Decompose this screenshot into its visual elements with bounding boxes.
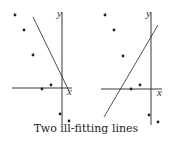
right-x-label: x <box>156 86 162 98</box>
right-y-label: y <box>145 7 151 19</box>
left-data-point <box>23 29 26 32</box>
right-fit-line <box>104 25 158 117</box>
left-data-point <box>14 14 17 17</box>
right-data-point <box>130 88 133 91</box>
figure-caption: Two ill-fitting lines <box>0 122 172 135</box>
right-data-point <box>113 29 116 32</box>
left-fit-line <box>33 17 69 91</box>
right-data-point <box>104 14 107 17</box>
left-data-point <box>50 84 53 87</box>
right-data-point <box>148 114 151 117</box>
left-y-label: y <box>56 7 62 19</box>
left-data-point <box>59 113 62 116</box>
figure: yxyx <box>0 0 172 141</box>
right-data-point <box>139 84 142 87</box>
left-data-point <box>41 88 44 91</box>
left-data-point <box>32 54 35 57</box>
right-data-point <box>122 55 125 58</box>
left-x-label: x <box>66 85 72 97</box>
